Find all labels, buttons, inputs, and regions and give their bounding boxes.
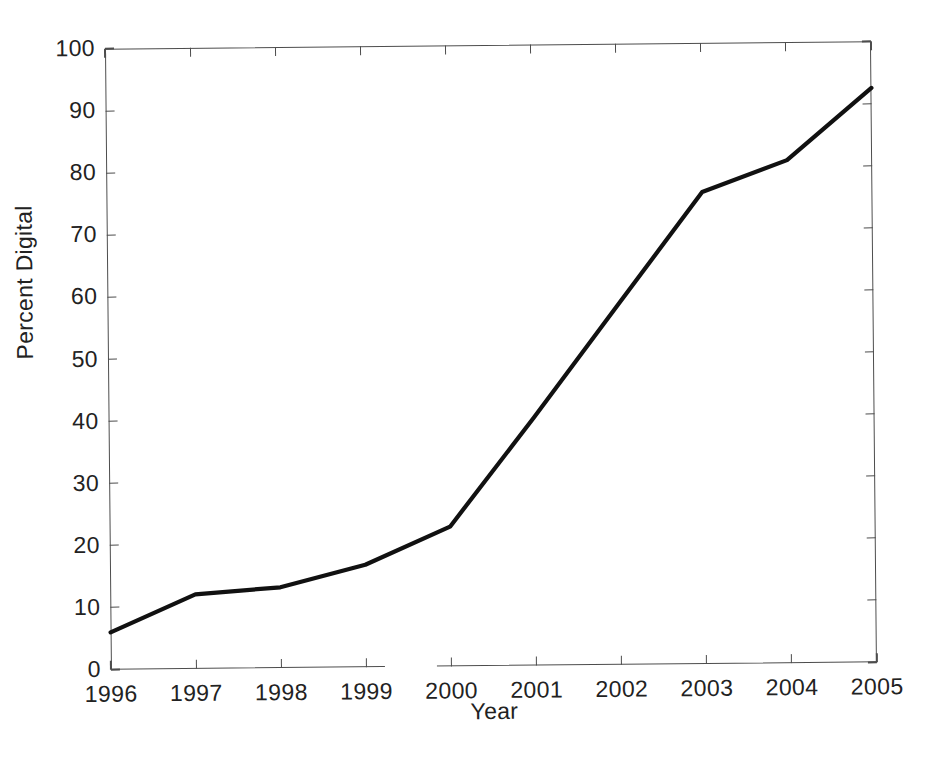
bottom-axis-fade: [385, 665, 437, 669]
line-series-percent-digital: [105, 88, 876, 632]
data-series-layer: [0, 0, 931, 759]
y-axis-label: Percent Digital: [12, 205, 36, 359]
chart-figure: 0102030405060708090100199619971998199920…: [0, 0, 931, 759]
plot-skew-wrapper: 0102030405060708090100199619971998199920…: [0, 0, 931, 759]
